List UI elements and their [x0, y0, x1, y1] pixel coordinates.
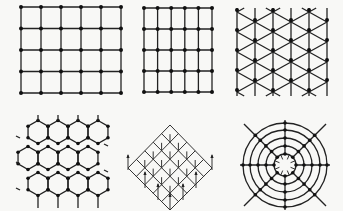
- rectangular-lattice: [142, 6, 214, 94]
- triangular-lattice: [235, 8, 329, 96]
- lattice-figure: [0, 0, 343, 211]
- square-lattice: [19, 5, 123, 95]
- polar-lattice: [240, 120, 330, 210]
- cubic-lattice-isometric: [126, 125, 213, 210]
- honeycomb-lattice: [16, 115, 110, 208]
